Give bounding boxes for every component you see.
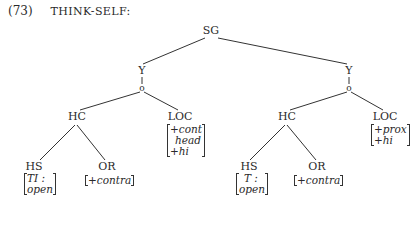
node-right-y: Y — [345, 65, 352, 77]
right-loc-feature-matrix: +prox +hi — [371, 124, 410, 146]
right-or-feature-matrix: +contra — [294, 175, 343, 186]
node-left-hc: HC — [68, 111, 86, 123]
node-right-loc: LOC — [373, 111, 398, 123]
left-or-feature-matrix: +contra — [85, 175, 134, 186]
feature: open — [239, 184, 265, 195]
feature: +contra — [88, 175, 131, 186]
node-left-y: Y — [138, 65, 145, 77]
feature: +contra — [297, 175, 340, 186]
node-right-circle: o — [346, 84, 351, 93]
node-sg: SG — [203, 25, 219, 37]
left-hs-feature-matrix: TI : open — [24, 173, 56, 195]
feature: +hi — [170, 146, 202, 157]
node-left-loc: LOC — [168, 111, 193, 123]
node-left-or: OR — [98, 161, 115, 173]
left-loc-feature-matrix: +cont head +hi — [167, 124, 205, 157]
feature: open — [27, 184, 53, 195]
node-left-circle: o — [139, 84, 144, 93]
feature: +hi — [374, 135, 407, 146]
node-right-hc: HC — [278, 111, 296, 123]
right-hs-feature-matrix: T : open — [236, 173, 268, 195]
node-right-or: OR — [308, 161, 325, 173]
